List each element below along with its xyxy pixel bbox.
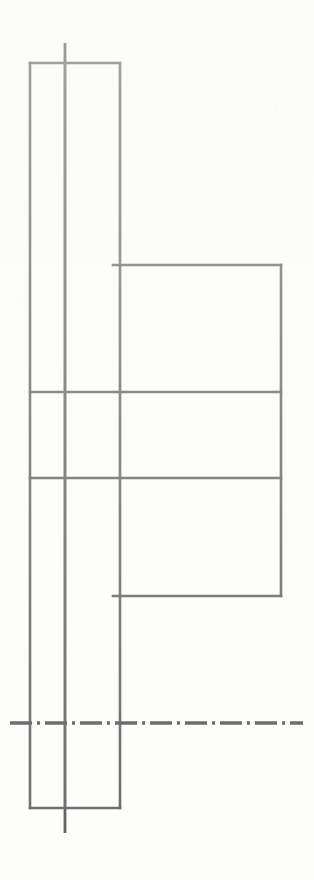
technical-drawing-canvas — [0, 0, 314, 880]
drawing-svg — [0, 0, 314, 880]
flange-outline — [30, 63, 120, 808]
hub-outline — [113, 265, 281, 596]
